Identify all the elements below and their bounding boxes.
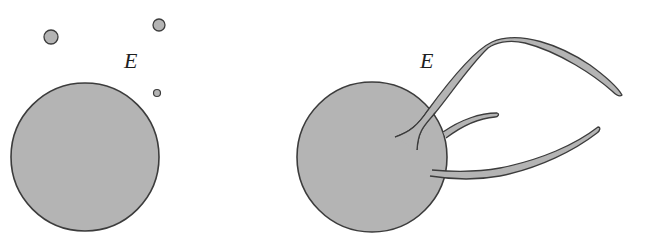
- left-diagram: [0, 0, 300, 247]
- panel-right: E: [290, 0, 645, 247]
- lower-filament: [430, 127, 600, 179]
- small-particle-1: [44, 30, 58, 44]
- label-e-right: E: [420, 50, 433, 72]
- right-diagram: [290, 0, 645, 247]
- small-particle-3: [154, 90, 161, 97]
- panel-left: E: [0, 0, 300, 247]
- large-cell: [297, 82, 447, 232]
- short-middle-filament: [443, 113, 498, 138]
- label-e-left: E: [124, 50, 137, 72]
- large-cell: [11, 83, 159, 231]
- small-particle-2: [153, 19, 165, 31]
